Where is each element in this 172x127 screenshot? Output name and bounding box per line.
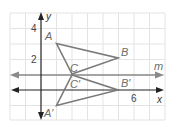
line-m-label: m [154,60,163,72]
x-axis-label: x [156,94,163,105]
vertex-c-label: C [70,62,78,74]
vertex-a-label: A [44,30,52,42]
coordinate-plane: 4 2 6 y x m A B C C′ B′ A′ [0,0,172,127]
x-tick-6: 6 [131,93,137,104]
vertex-b-prime-label: B′ [121,77,131,89]
arrow-right-icon [155,72,164,79]
y-tick-4: 4 [31,23,37,34]
y-axis-label: y [45,11,52,22]
vertex-b-label: B [121,46,128,58]
vertex-a-prime-label: A′ [43,107,54,119]
arrow-right-icon [156,87,164,93]
arrow-left-icon [10,72,19,79]
arrow-left-icon [11,87,19,93]
y-tick-2: 2 [31,54,37,65]
vertex-c-prime-label: C′ [70,78,81,90]
